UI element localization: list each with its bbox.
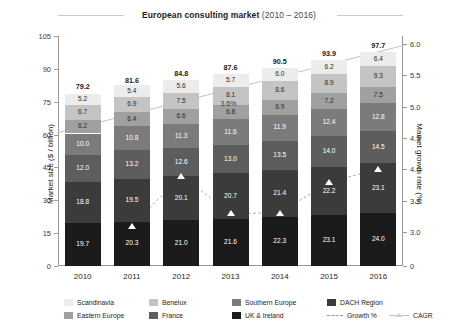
bar-segment[interactable]: 6.2 [65, 120, 101, 134]
bar-segment-value: 11.6 [224, 129, 236, 136]
bar-total-label: 93.9 [311, 49, 347, 58]
bar-segment[interactable]: 7.2 [311, 93, 347, 109]
bar-segment[interactable]: 13.5 [262, 141, 298, 171]
legend-item[interactable]: UK & Ireland [232, 312, 327, 319]
legend-item[interactable]: Growth % [327, 312, 389, 319]
bar-column[interactable]: 20.319.513.210.86.46.95.4 [114, 87, 150, 266]
bar-segment[interactable]: 14.0 [311, 136, 347, 167]
bar-segment[interactable]: 12.4 [311, 109, 347, 136]
bar-column[interactable]: 19.718.812.010.06.26.75.2 [65, 93, 101, 266]
bar-segment-value: 8.6 [275, 87, 284, 94]
legend-item[interactable]: Eastern Europe [64, 312, 149, 319]
bar-segment[interactable]: 13.2 [114, 150, 150, 179]
bar-segment-value: 6.8 [226, 109, 235, 116]
legend-swatch [149, 312, 158, 319]
bar-segment[interactable]: 10.0 [65, 134, 101, 156]
bar-segment[interactable]: 6.4 [360, 52, 396, 66]
growth-marker-triangle [374, 166, 382, 172]
bar-segment[interactable]: 21.0 [163, 220, 199, 266]
chart-legend: ScandinaviaBeneluxSouthern EuropeDACH Re… [64, 296, 454, 322]
bar-segment[interactable]: 6.7 [65, 105, 101, 120]
bar-segment[interactable]: 18.8 [65, 182, 101, 223]
bar-segment-value: 14.0 [323, 148, 336, 155]
bar-segment-value: 7.5 [177, 98, 186, 105]
bar-segment-value: 5.7 [226, 77, 235, 84]
y-tick-right [403, 201, 407, 202]
bar-segment[interactable]: 12.8 [360, 103, 396, 131]
bar-segment[interactable]: 9.3 [360, 66, 396, 86]
bar-segment[interactable]: 12.0 [65, 155, 101, 181]
bar-segment[interactable]: 6.9 [262, 100, 298, 115]
bar-segment-value: 8.1 [226, 92, 235, 99]
bar-segment[interactable]: 22.3 [262, 217, 298, 266]
bar-segment-value: 6.0 [275, 71, 284, 78]
bar-segment[interactable]: 6.0 [262, 68, 298, 81]
bar-segment[interactable]: 11.9 [262, 115, 298, 141]
bar-segment[interactable]: 19.7 [65, 223, 101, 266]
bar-segment[interactable]: 7.5 [360, 87, 396, 103]
bar-segment[interactable]: 5.6 [163, 80, 199, 92]
bar-segment[interactable]: 6.4 [114, 112, 150, 126]
bar-segment[interactable]: 11.3 [163, 124, 199, 149]
bar-segment-value: 7.5 [374, 92, 383, 99]
bar-segment[interactable]: 24.0 [360, 213, 396, 266]
bar-segment[interactable]: 14.5 [360, 131, 396, 163]
legend-swatch [64, 312, 73, 319]
growth-marker-triangle [177, 173, 185, 179]
x-tick-label: 2015 [311, 272, 347, 281]
bar-segment-value: 20.3 [126, 240, 139, 247]
y-tick-label-left: 30 [43, 196, 51, 205]
bar-segment-value: 19.7 [76, 241, 89, 248]
bar-segment[interactable]: 21.6 [213, 219, 249, 266]
bar-segment[interactable]: 6.6 [163, 109, 199, 123]
y-tick-left [54, 102, 58, 103]
bar-segment[interactable]: 10.8 [114, 126, 150, 150]
bar-segment[interactable]: 19.5 [114, 179, 150, 222]
plot-area: 015304560759010503.03.54.04.55.05.56.019… [58, 36, 403, 266]
bar-column[interactable]: 22.321.413.511.96.98.66.0 [262, 68, 298, 266]
bar-segment-value: 22.2 [323, 188, 336, 195]
y-tick-label-left: 105 [38, 32, 51, 41]
bar-segment-value: 6.4 [374, 56, 383, 63]
bar-segment[interactable]: 13.0 [213, 145, 249, 173]
bar-segment[interactable]: 8.6 [262, 81, 298, 100]
legend-item[interactable]: DACH Region [327, 299, 407, 306]
legend-label: France [162, 312, 183, 319]
bar-segment[interactable]: 6.9 [114, 97, 150, 112]
bar-segment-value: 14.5 [372, 144, 385, 151]
bar-segment[interactable]: 11.6 [213, 119, 249, 144]
bar-column[interactable]: 24.023.114.512.87.59.36.4 [360, 52, 396, 266]
bar-segment-value: 6.6 [177, 113, 186, 120]
bar-segment[interactable]: 20.1 [163, 176, 199, 220]
legend-label: DACH Region [340, 299, 383, 306]
bar-segment[interactable]: 6.2 [311, 60, 347, 74]
x-tick-label: 2014 [262, 272, 298, 281]
y-tick-right [403, 44, 407, 45]
bar-segment-value: 7.2 [324, 98, 333, 105]
bar-segment[interactable]: 5.2 [65, 94, 101, 105]
legend-label: Southern Europe [245, 299, 296, 306]
bar-segment-value: 6.2 [78, 123, 87, 130]
legend-item[interactable]: Southern Europe [232, 299, 327, 306]
legend-item[interactable]: France [149, 312, 232, 319]
y-tick-label-left: 60 [43, 130, 51, 139]
bar-segment-value: 11.3 [175, 133, 187, 140]
bar-segment[interactable]: 7.5 [163, 93, 199, 109]
bar-segment[interactable]: 6.8 [213, 105, 249, 120]
y-tick-label-right: 3.5 [410, 196, 420, 205]
y-tick-label-right: 5.0 [410, 102, 420, 111]
bar-segment-value: 5.4 [127, 88, 136, 95]
cagr-line-icon [389, 315, 409, 316]
bar-column[interactable]: 23.122.214.012.47.28.96.2 [311, 60, 347, 266]
bar-segment[interactable]: 5.4 [114, 85, 150, 97]
bar-segment-value: 8.9 [324, 80, 333, 87]
bar-segment[interactable]: 22.2 [311, 167, 347, 216]
bar-segment[interactable]: 8.9 [311, 74, 347, 93]
legend-item[interactable]: Benelux [149, 299, 232, 306]
bar-segment[interactable]: 5.7 [213, 74, 249, 86]
bar-total-label: 97.7 [360, 41, 396, 50]
bar-segment[interactable]: 23.1 [311, 215, 347, 266]
legend-item[interactable]: Scandinavia [64, 299, 149, 306]
legend-item[interactable]: CAGR [389, 312, 449, 319]
bar-segment-value: 21.6 [224, 239, 237, 246]
